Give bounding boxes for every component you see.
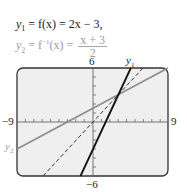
curve-y2-label: y2 xyxy=(5,140,13,155)
xmin-label: −9 xyxy=(2,115,14,127)
ymin-label: −6 xyxy=(86,178,98,190)
curve-y1-label: y1 xyxy=(126,54,134,69)
xmax-label: 9 xyxy=(171,115,177,127)
graph-window xyxy=(0,0,187,192)
ymax-label: 6 xyxy=(89,55,95,67)
